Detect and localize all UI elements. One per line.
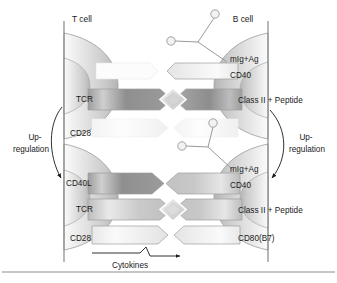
label-mig-ag-upper: mIg+Ag bbox=[230, 55, 259, 64]
cd40-receptor-pair-upper bbox=[96, 63, 238, 79]
label-class2-lower: Class II + Peptide bbox=[238, 206, 303, 215]
upregulation-arrow-right bbox=[270, 110, 284, 178]
antibody-upper-arm-2 bbox=[175, 41, 198, 42]
cd40l-cd40-complex-lower bbox=[88, 173, 240, 194]
immunology-diagram: T cell B cell TCR CD28 CD40L TCR CD28 mI… bbox=[0, 0, 337, 283]
cd28-cd80-complex-lower bbox=[92, 226, 240, 244]
antigen-circle-upper-1 bbox=[211, 10, 219, 18]
label-tcr-lower: TCR bbox=[76, 205, 93, 214]
cd80-bar-lower bbox=[174, 226, 240, 244]
label-cd40-upper: CD40 bbox=[230, 71, 251, 80]
cd28-bar-lower bbox=[92, 226, 168, 244]
tcr-mhc-complex-upper bbox=[88, 88, 242, 111]
label-cd80-b7: CD80(B7) bbox=[238, 234, 275, 243]
upregulation-right-line1: Up- bbox=[299, 133, 312, 142]
antigen-circle-lower-1 bbox=[209, 119, 217, 127]
label-cd40-lower: CD40 bbox=[230, 181, 251, 190]
label-cd28-lower: CD28 bbox=[70, 234, 91, 243]
tcr-mhc-complex-lower bbox=[88, 198, 242, 221]
label-cd40l: CD40L bbox=[66, 179, 92, 188]
antibody-mig-ag-upper bbox=[167, 10, 227, 62]
antigen-circle-lower-2 bbox=[178, 142, 186, 150]
upregulation-left-line1: Up- bbox=[28, 133, 41, 142]
b-cell-header: B cell bbox=[233, 14, 254, 24]
upregulation-arrow-left bbox=[51, 107, 62, 178]
cd40-bar-lower bbox=[166, 173, 240, 194]
upregulation-left-line2: regulation bbox=[13, 145, 49, 154]
label-class2-upper: Class II + Peptide bbox=[238, 96, 303, 105]
antibody-upper-arm-1 bbox=[198, 18, 214, 42]
cd40l-bar-upper-faint bbox=[96, 63, 158, 79]
cd80-bar-upper-faint bbox=[174, 119, 238, 137]
upregulation-right-line2: regulation bbox=[289, 145, 325, 154]
antibody-lower-arm-2 bbox=[186, 146, 208, 147]
cytokines-arrow bbox=[92, 247, 180, 256]
cd40-bar-upper bbox=[167, 63, 238, 79]
label-mig-ag-lower: mIg+Ag bbox=[230, 165, 259, 174]
antibody-upper-stem bbox=[198, 42, 227, 62]
antigen-circle-upper-2 bbox=[167, 37, 175, 45]
cd28-bar-upper-faint bbox=[92, 119, 168, 137]
label-cytokines: Cytokines bbox=[112, 261, 148, 270]
label-cd28-upper: CD28 bbox=[70, 129, 91, 138]
label-tcr-upper: TCR bbox=[76, 95, 93, 104]
t-cell-header: T cell bbox=[72, 14, 92, 24]
cd40l-bar-lower bbox=[88, 173, 164, 194]
